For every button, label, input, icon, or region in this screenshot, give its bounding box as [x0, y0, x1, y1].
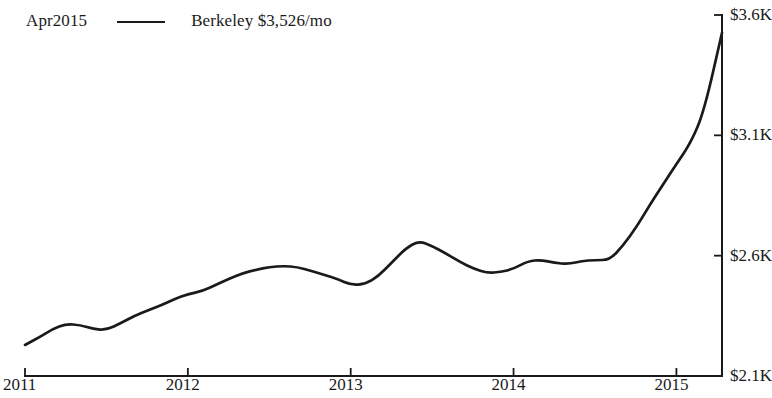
y-tick-label: $3.6K — [730, 6, 772, 23]
axis-spines — [25, 15, 722, 376]
x-tick-label: 2015 — [654, 375, 688, 395]
y-tick-label: $2.6K — [730, 247, 772, 264]
y-tick-label: $2.1K — [730, 367, 772, 384]
x-tick-label: 2014 — [492, 375, 526, 395]
y-tick-label: $3.1K — [730, 126, 772, 143]
x-tick-label: 2013 — [329, 375, 363, 395]
x-tick-label: 2012 — [166, 375, 200, 395]
series-line-berkeley — [25, 33, 722, 345]
x-tick-label: 2011 — [3, 375, 36, 395]
axes-group — [25, 15, 722, 376]
